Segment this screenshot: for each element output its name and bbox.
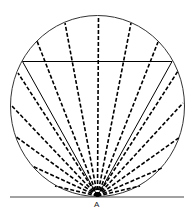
dashed-ray — [98, 16, 99, 196]
diagram-canvas — [0, 0, 196, 218]
point-a-label: A — [94, 200, 99, 209]
solid-ray — [98, 62, 173, 197]
dashed-ray — [98, 103, 184, 196]
